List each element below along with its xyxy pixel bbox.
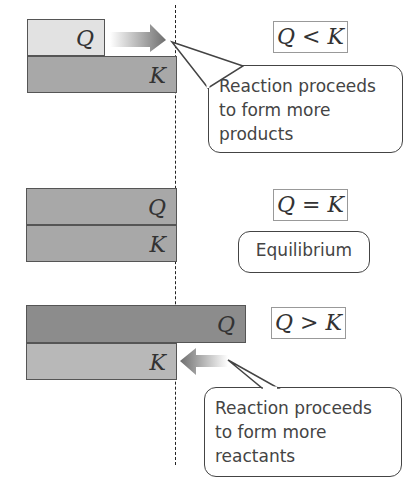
arrows-overlay <box>0 0 411 500</box>
callout-pointer-reactants <box>228 360 278 388</box>
arrow-right-icon <box>110 24 166 52</box>
arrow-left-icon <box>180 348 228 375</box>
callout-pointer-products <box>172 42 243 88</box>
